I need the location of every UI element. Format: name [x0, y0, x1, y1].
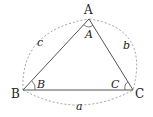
angle-arc-a	[84, 25, 93, 27]
vertex-label-c: C	[135, 87, 144, 101]
angle-arc-b	[32, 81, 35, 90]
side-label-a: a	[76, 100, 83, 113]
side-label-c: c	[37, 36, 43, 49]
side-label-b: b	[123, 39, 130, 52]
angle-arc-c	[125, 82, 128, 90]
triangle-diagram: A B C A B C c b a	[0, 0, 153, 117]
vertex-label-b: B	[11, 87, 20, 101]
vertex-label-a: A	[83, 3, 93, 17]
angle-label-c: C	[111, 78, 120, 91]
angle-label-a: A	[84, 28, 93, 41]
angle-label-b: B	[36, 78, 45, 91]
